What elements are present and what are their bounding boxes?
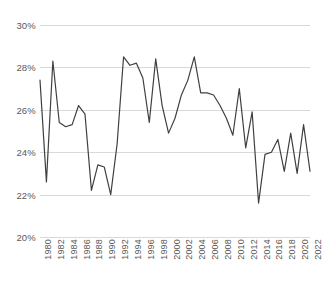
y-tick-label: 20% — [16, 232, 36, 243]
x-tick-label: 1982 — [57, 239, 66, 260]
x-tick-label: 1992 — [121, 239, 130, 260]
x-tick-label: 1998 — [160, 239, 169, 260]
x-tick-label: 1986 — [83, 239, 92, 260]
x-tick-label: 1984 — [70, 239, 79, 260]
x-tick-label: 2018 — [288, 239, 297, 260]
x-tick-label: 2012 — [250, 239, 259, 260]
data-series-layer — [40, 25, 310, 237]
y-tick-label: 26% — [16, 104, 36, 115]
x-tick-label: 2010 — [237, 239, 246, 260]
x-tick-label: 1988 — [95, 239, 104, 260]
y-tick-label: 24% — [16, 147, 36, 158]
x-tick-label: 2022 — [314, 239, 323, 260]
x-tick-label: 2008 — [224, 239, 233, 260]
x-tick-label: 1980 — [44, 239, 53, 260]
series-line-0 — [40, 57, 310, 203]
x-tick-label: 1996 — [147, 239, 156, 260]
x-tick-label: 2006 — [211, 239, 220, 260]
x-tick-label: 2004 — [198, 239, 207, 260]
y-tick-label: 28% — [16, 62, 36, 73]
x-tick-label: 2020 — [301, 239, 310, 260]
x-tick-label: 2014 — [263, 239, 272, 260]
y-tick-label: 30% — [16, 20, 36, 31]
x-tick-label: 2000 — [173, 239, 182, 260]
x-tick-label: 1994 — [134, 239, 143, 260]
x-tick-label: 1990 — [108, 239, 117, 260]
gridline — [40, 237, 310, 238]
x-axis: 1980198219841986198819901992199419961998… — [40, 239, 310, 285]
plot-area — [40, 25, 310, 237]
line-chart: 20%22%24%26%28%30% 198019821984198619881… — [0, 0, 324, 285]
x-tick-label: 2002 — [185, 239, 194, 260]
y-tick-label: 22% — [16, 189, 36, 200]
y-axis: 20%22%24%26%28%30% — [8, 0, 36, 285]
x-tick-label: 2016 — [275, 239, 284, 260]
